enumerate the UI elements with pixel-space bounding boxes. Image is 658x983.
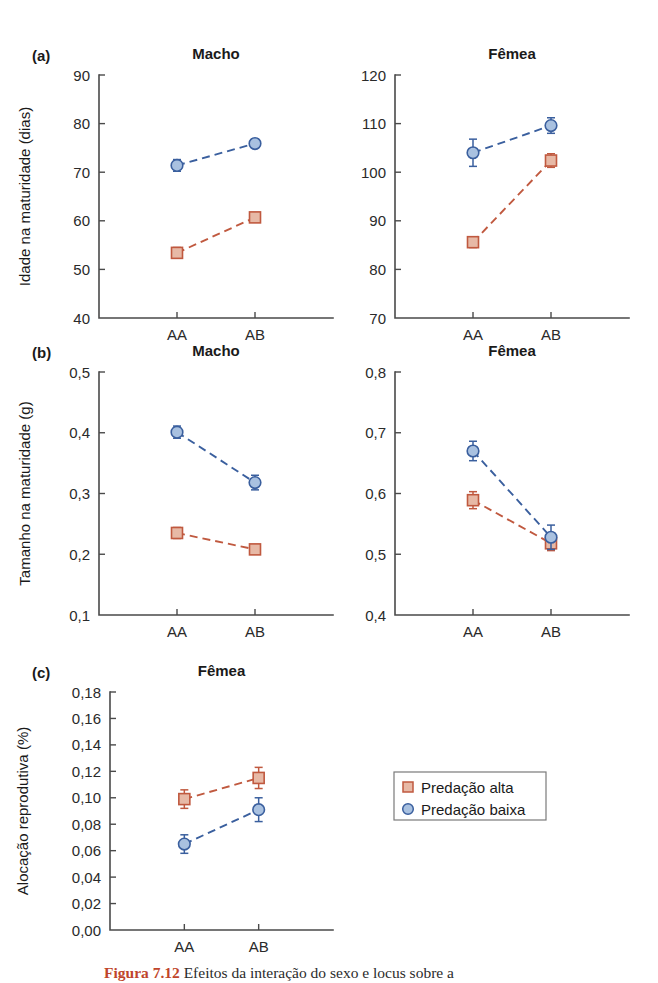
series-line-panel-a-femea-1 — [473, 126, 551, 153]
figure-caption: Figura 7.12 Efeitos da interação do sexo… — [0, 963, 658, 983]
y-tick-label-panel-b-macho-4: 0,5 — [69, 364, 90, 381]
x-tick-label-panel-c-femea-0: AA — [174, 938, 194, 955]
legend-marker-square-0 — [403, 782, 413, 792]
y-axis-title-panel-c-femea: Alocação reprodutiva (%) — [14, 727, 31, 895]
y-tick-label-panel-a-femea-2: 90 — [369, 212, 386, 229]
y-tick-label-panel-b-macho-1: 0,2 — [69, 546, 90, 563]
panel-title-panel-a-femea: Fêmea — [488, 45, 536, 62]
axis-lines-panel-a-femea — [395, 75, 629, 318]
data-marker-square-panel-c-femea-0-1 — [253, 772, 264, 783]
y-tick-label-panel-c-femea-1: 0,02 — [72, 895, 101, 912]
y-tick-label-panel-b-macho-3: 0,4 — [69, 424, 90, 441]
y-tick-label-panel-a-macho-0: 40 — [73, 310, 90, 327]
y-tick-label-panel-a-femea-3: 100 — [361, 164, 386, 181]
y-tick-label-panel-a-femea-5: 120 — [361, 67, 386, 84]
axis-lines-panel-a-macho — [99, 75, 333, 318]
series-line-panel-b-macho-0 — [177, 533, 255, 549]
y-tick-label-panel-a-macho-3: 70 — [73, 164, 90, 181]
y-tick-label-panel-c-femea-5: 0,10 — [72, 789, 101, 806]
x-tick-label-panel-a-macho-0: AA — [167, 326, 187, 343]
data-marker-circle-panel-a-macho-1-1 — [249, 138, 261, 150]
y-tick-label-panel-b-femea-0: 0,4 — [365, 607, 386, 624]
chart-panel-panel-a-femea: 708090100110120AAABFêmea — [361, 45, 629, 343]
y-tick-label-panel-b-macho-0: 0,1 — [69, 607, 90, 624]
y-tick-label-panel-c-femea-4: 0,08 — [72, 816, 101, 833]
series-line-panel-c-femea-0 — [184, 778, 258, 799]
y-tick-label-panel-c-femea-0: 0,00 — [72, 922, 101, 939]
panel-letter-panel-c-femea: (c) — [32, 664, 50, 681]
data-marker-square-panel-a-macho-0-0 — [172, 247, 183, 258]
y-axis-title-panel-b-macho: Tamanho na maturidade (g) — [16, 401, 33, 585]
data-marker-circle-panel-a-femea-1-0 — [467, 147, 479, 159]
chart-panel-panel-b-femea: 0,40,50,60,70,8AAABFêmea — [365, 342, 629, 640]
data-marker-circle-panel-a-macho-1-0 — [171, 160, 183, 172]
caption-number: Figura 7.12 — [104, 964, 180, 981]
data-marker-circle-panel-b-femea-1-0 — [467, 445, 479, 457]
y-tick-label-panel-b-femea-4: 0,8 — [365, 364, 386, 381]
data-marker-square-panel-c-femea-0-0 — [179, 794, 190, 805]
x-tick-label-panel-a-femea-1: AB — [541, 326, 561, 343]
data-marker-circle-panel-a-femea-1-1 — [545, 120, 557, 132]
panel-title-panel-a-macho: Macho — [192, 45, 240, 62]
legend-label-0: Predação alta — [421, 779, 514, 796]
y-tick-label-panel-a-macho-2: 60 — [73, 212, 90, 229]
y-tick-label-panel-c-femea-8: 0,16 — [72, 710, 101, 727]
x-tick-label-panel-b-macho-1: AB — [245, 623, 265, 640]
figure-root: 405060708090AAABMacho(a)Idade na maturid… — [0, 0, 658, 983]
chart-panel-panel-b-macho: 0,10,20,30,40,5AAABMacho(b)Tamanho na ma… — [16, 342, 333, 640]
y-tick-label-panel-a-femea-4: 110 — [362, 115, 386, 132]
panel-title-panel-c-femea: Fêmea — [198, 662, 246, 679]
data-marker-square-panel-b-macho-0-0 — [172, 527, 183, 538]
series-line-panel-b-macho-1 — [177, 432, 255, 482]
data-marker-circle-panel-c-femea-1-1 — [253, 804, 265, 816]
legend-marker-circle-1 — [403, 804, 414, 815]
series-line-panel-b-femea-1 — [473, 451, 551, 537]
data-marker-square-panel-a-femea-0-1 — [546, 155, 557, 166]
data-marker-circle-panel-b-femea-1-1 — [545, 531, 557, 543]
y-tick-label-panel-c-femea-6: 0,12 — [72, 763, 101, 780]
data-marker-square-panel-a-femea-0-0 — [468, 237, 479, 248]
series-line-panel-b-femea-0 — [473, 500, 551, 543]
series-line-panel-a-femea-0 — [473, 161, 551, 243]
series-line-panel-a-macho-0 — [177, 217, 255, 252]
y-tick-label-panel-b-femea-1: 0,5 — [365, 546, 386, 563]
chart-panel-panel-c-femea: 0,000,020,040,060,080,100,120,140,160,18… — [14, 662, 333, 955]
y-tick-label-panel-a-macho-4: 80 — [73, 115, 90, 132]
axis-lines-panel-b-macho — [99, 372, 333, 615]
x-tick-label-panel-c-femea-1: AB — [249, 938, 269, 955]
y-tick-label-panel-b-macho-2: 0,3 — [69, 485, 90, 502]
x-tick-label-panel-a-macho-1: AB — [245, 326, 265, 343]
y-tick-label-panel-c-femea-7: 0,14 — [72, 736, 101, 753]
x-tick-label-panel-b-femea-0: AA — [463, 623, 483, 640]
legend-label-1: Predação baixa — [421, 801, 526, 818]
data-marker-square-panel-b-macho-0-1 — [250, 544, 261, 555]
y-tick-label-panel-a-macho-5: 90 — [73, 67, 90, 84]
data-marker-square-panel-b-femea-0-0 — [468, 495, 479, 506]
x-tick-label-panel-b-femea-1: AB — [541, 623, 561, 640]
y-tick-label-panel-c-femea-2: 0,04 — [72, 869, 101, 886]
y-tick-label-panel-a-femea-1: 80 — [369, 261, 386, 278]
y-tick-label-panel-c-femea-3: 0,06 — [72, 842, 101, 859]
panel-title-panel-b-macho: Macho — [192, 342, 240, 359]
y-tick-label-panel-b-femea-2: 0,6 — [365, 485, 386, 502]
chart-panel-panel-a-macho: 405060708090AAABMacho(a)Idade na maturid… — [16, 45, 333, 343]
panel-letter-panel-a-macho: (a) — [32, 47, 50, 64]
series-legend: Predação altaPredação baixa — [394, 772, 546, 820]
series-line-panel-a-macho-1 — [177, 144, 255, 166]
data-marker-square-panel-a-macho-0-1 — [250, 212, 261, 223]
caption-body: Efeitos da interação do sexo e locus sob… — [184, 964, 454, 981]
panel-title-panel-b-femea: Fêmea — [488, 342, 536, 359]
panel-letter-panel-b-macho: (b) — [32, 344, 51, 361]
axis-lines-panel-c-femea — [110, 692, 333, 930]
figure-canvas: 405060708090AAABMacho(a)Idade na maturid… — [0, 0, 658, 983]
series-line-panel-c-femea-1 — [184, 810, 258, 844]
data-marker-circle-panel-c-femea-1-0 — [179, 838, 191, 850]
y-tick-label-panel-b-femea-3: 0,7 — [365, 424, 386, 441]
data-marker-circle-panel-b-macho-1-1 — [249, 477, 261, 489]
x-tick-label-panel-a-femea-0: AA — [463, 326, 483, 343]
y-tick-label-panel-a-femea-0: 70 — [369, 310, 386, 327]
y-tick-label-panel-a-macho-1: 50 — [73, 261, 90, 278]
x-tick-label-panel-b-macho-0: AA — [167, 623, 187, 640]
data-marker-circle-panel-b-macho-1-0 — [171, 426, 183, 438]
y-tick-label-panel-c-femea-9: 0,18 — [72, 684, 101, 701]
